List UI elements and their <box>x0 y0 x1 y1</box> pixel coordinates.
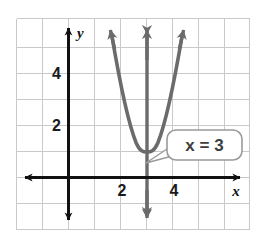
callout-label: x = 3 <box>185 136 223 155</box>
x-axis-label: x <box>231 183 240 199</box>
parabola-arm-right-arrow <box>179 30 183 49</box>
x-tick-label-2: 2 <box>118 182 127 199</box>
graph-figure: 4 2 2 4 y x x = 3 <box>0 0 260 245</box>
y-tick-label-4: 4 <box>52 65 61 82</box>
x-tick-label-4: 4 <box>170 182 179 199</box>
y-axis-label: y <box>75 25 84 41</box>
y-tick-label-2: 2 <box>52 117 61 134</box>
coordinate-plane-svg: 4 2 2 4 y x x = 3 <box>0 0 260 245</box>
parabola-arm-left-arrow <box>110 30 114 49</box>
